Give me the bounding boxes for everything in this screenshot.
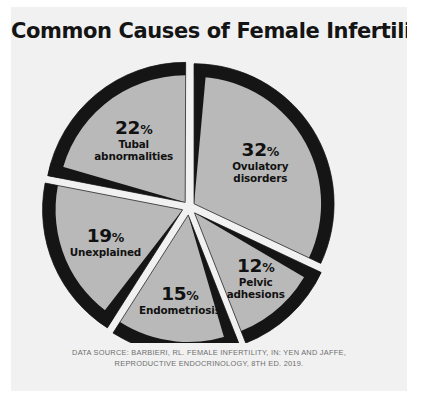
pie-chart: 32%Ovulatorydisorders22%Tubalabnormaliti… [11,55,407,343]
slice-name-label: Unexplained [70,246,141,258]
data-source-note: DATA SOURCE: BARBIERI, RL. FEMALE INFERT… [11,347,407,369]
slice-name-label: abnormalities [94,150,173,162]
slice-name-label: adhesions [227,288,285,300]
figure-card: Common Causes of Female Infertility 32%O… [11,7,407,391]
slice-name-label: disorders [233,172,287,184]
slice-name-label: Ovulatory [232,160,289,172]
slice-name-label: Pelvic [239,276,273,288]
slice-name-label: Endometriosis [139,304,221,316]
source-line-2: REPRODUCTIVE ENDOCRINOLOGY, 8TH ED. 2019… [11,358,407,369]
source-line-1: DATA SOURCE: BARBIERI, RL. FEMALE INFERT… [11,347,407,358]
page-title: Common Causes of Female Infertility [11,19,407,43]
pie-chart-svg: 32%Ovulatorydisorders22%Tubalabnormaliti… [11,55,407,343]
slice-name-label: Tubal [118,138,149,150]
